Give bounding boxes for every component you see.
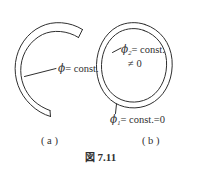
subcaption-b: ( b ): [142, 136, 160, 147]
figure-caption: 図 7.11: [0, 152, 201, 163]
label-phi1-const-zero: ϕ1= const.=0: [110, 114, 165, 126]
label-phi-const-a: ϕ= const.: [58, 63, 99, 75]
label-phi-const-a-text: = const.: [65, 63, 98, 74]
panel-a-end-cap-top: [79, 30, 83, 38]
figure-caption-number: 7.11: [98, 151, 117, 163]
panel-a-leader-line: [25, 69, 57, 77]
figure-drawing: [0, 0, 201, 170]
label-not-equal-zero: ≠ 0: [128, 59, 142, 70]
panel-b-leader-line-inner: [113, 48, 122, 53]
label-phi2-const-text: = const.: [131, 44, 164, 55]
figure-caption-prefix: 図: [85, 152, 95, 163]
subcaption-a: ( a ): [41, 136, 58, 147]
panel-a-end-cap-bottom: [50, 111, 51, 117]
label-phi1-const-zero-text: = const.=0: [120, 114, 165, 125]
figure-container: ϕ= const. ϕ2= const. ≠ 0 ϕ1= const.=0 ( …: [0, 0, 201, 170]
label-phi2-const: ϕ2= const.: [121, 44, 165, 56]
